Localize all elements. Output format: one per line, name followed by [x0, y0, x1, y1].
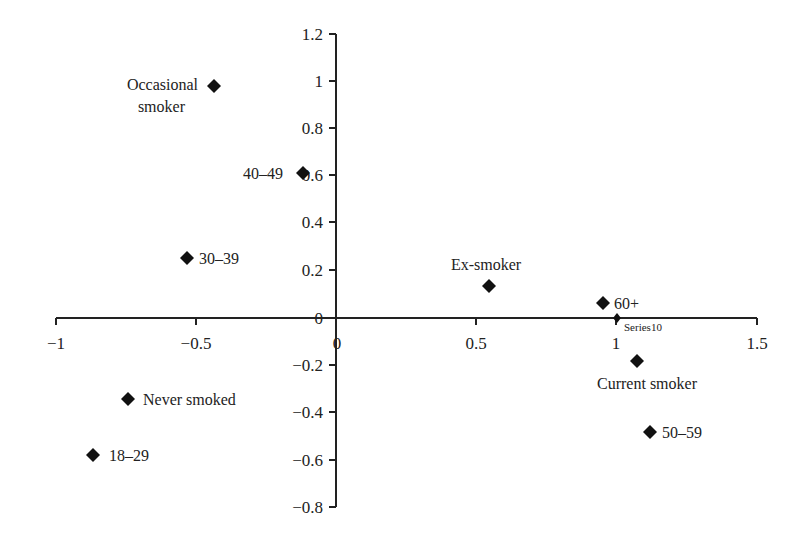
- y-axis: [329, 34, 336, 507]
- y-tick-label: −0.8: [292, 498, 323, 517]
- diamond-marker-60-plus: [596, 296, 610, 310]
- diamond-marker-30-39: [180, 251, 194, 265]
- y-tick-label: −0.6: [292, 451, 323, 470]
- y-tick-label: −0.4: [292, 403, 323, 422]
- label-never-smoked: Never smoked: [143, 391, 236, 408]
- label-occasional-line1: Occasional: [127, 76, 199, 93]
- label-30-39: 30–39: [199, 250, 239, 267]
- diamond-marker-series10: [613, 313, 621, 323]
- label-50-59: 50–59: [662, 424, 702, 441]
- diamond-marker-50-59: [643, 425, 657, 439]
- x-tick-label: 1.5: [746, 334, 767, 353]
- y-tick-label: 0.8: [302, 119, 323, 138]
- label-current-smoker: Current smoker: [597, 375, 698, 392]
- x-tick-label: 0.5: [465, 334, 486, 353]
- x-tick-label: 0: [333, 334, 342, 353]
- y-tick-label: −0.2: [292, 356, 323, 375]
- y-tick-label: 0.2: [302, 261, 323, 280]
- x-tick-label: −0.5: [181, 334, 212, 353]
- label-18-29: 18–29: [109, 447, 149, 464]
- scatter-chart: −1 −0.5 0 0.5 1 1.5 1.2 1 0.8 0.6 0.4 0.…: [0, 0, 809, 547]
- y-tick-label: 1: [315, 72, 324, 91]
- y-tick-label: 1.2: [302, 25, 323, 44]
- y-tick-label: 0: [315, 309, 324, 328]
- diamond-marker-never-smoked: [121, 392, 135, 406]
- diamond-marker-ex-smoker: [482, 279, 496, 293]
- x-tick-label: −1: [47, 334, 65, 353]
- label-40-49: 40–49: [243, 165, 283, 182]
- diamond-marker-18-29: [86, 448, 100, 462]
- label-occasional-line2: smoker: [138, 98, 186, 115]
- point-labels: Occasional smoker 40–49 30–39 Ex-smoker …: [109, 76, 702, 464]
- label-series10: Series10: [624, 321, 662, 333]
- y-tick-labels: 1.2 1 0.8 0.6 0.4 0.2 0 −0.2 −0.4 −0.6 −…: [292, 25, 323, 517]
- x-tick-label: 1: [612, 334, 621, 353]
- diamond-marker-current-smoker: [630, 354, 644, 368]
- label-ex-smoker: Ex-smoker: [451, 256, 522, 273]
- y-tick-label: 0.4: [302, 213, 324, 232]
- x-tick-labels: −1 −0.5 0 0.5 1 1.5: [47, 334, 768, 353]
- diamond-marker-occasional-smoker: [207, 79, 221, 93]
- label-60-plus: 60+: [614, 295, 639, 312]
